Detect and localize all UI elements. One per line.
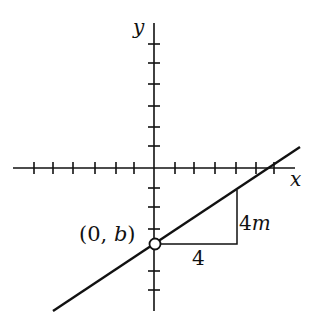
intercept-label: (0, b) [79, 222, 136, 246]
y-intercept-point [150, 239, 161, 250]
rise-label-var: m [252, 211, 271, 235]
intercept-label-open: (0, [79, 222, 114, 246]
run-label: 4 [192, 246, 205, 270]
intercept-label-var: b [114, 222, 127, 246]
diagram-canvas: y x (0, b) 4m 4 [0, 0, 321, 328]
rise-label-num: 4 [239, 211, 252, 235]
slope-diagram: y x (0, b) 4m 4 [0, 0, 321, 328]
intercept-label-close: ) [127, 222, 135, 246]
x-axis-label: x [290, 167, 301, 191]
rise-label: 4m [239, 211, 271, 235]
y-axis-label: y [132, 15, 145, 39]
